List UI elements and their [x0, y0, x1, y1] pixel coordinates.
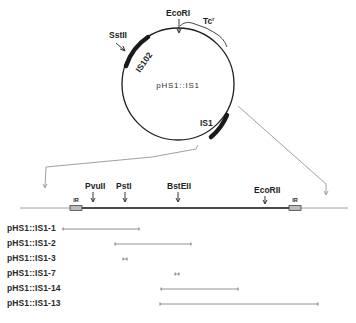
deletion-clone-label: pHS1::IS1-1: [7, 223, 56, 233]
deletion-clone-label: pHS1::IS1-3: [7, 253, 56, 263]
is1-label: IS1: [200, 118, 213, 128]
svg-text:BstEII: BstEII: [167, 181, 191, 191]
site-psti: PstI: [116, 181, 132, 202]
plasmid-name: pHS1::IS1: [156, 81, 200, 90]
sstii-label: SstII: [109, 30, 127, 40]
is1-element: [211, 115, 227, 137]
site-pvuii: PvuII: [85, 181, 105, 202]
svg-text:PstI: PstI: [116, 181, 132, 191]
deletion-clone-label: pHS1::IS1-7: [7, 268, 56, 278]
tc-label: Tcr: [203, 16, 215, 26]
ecori-label: EcoRI: [166, 8, 190, 18]
deletion-clone-label: pHS1::IS1-13: [7, 298, 61, 308]
expansion-bracket: [152, 145, 198, 157]
deletion-bars: [63, 228, 318, 306]
ir-right-label: IR: [292, 197, 298, 203]
is102-label: IS102: [133, 50, 154, 74]
svg-text:EcoRII: EcoRII: [254, 185, 280, 195]
ir-right-box: [289, 206, 301, 211]
ir-left-label: IR: [73, 197, 79, 203]
site-ecorii: EcoRII: [254, 185, 280, 204]
right-connector-line: [238, 106, 326, 194]
svg-text:PvuII: PvuII: [85, 181, 105, 191]
deletion-clone-label: pHS1::IS1-14: [7, 283, 61, 293]
site-bsteii: BstEII: [167, 181, 191, 202]
ir-left-box: [70, 206, 82, 211]
deletion-clone-label: pHS1::IS1-2: [7, 238, 56, 248]
